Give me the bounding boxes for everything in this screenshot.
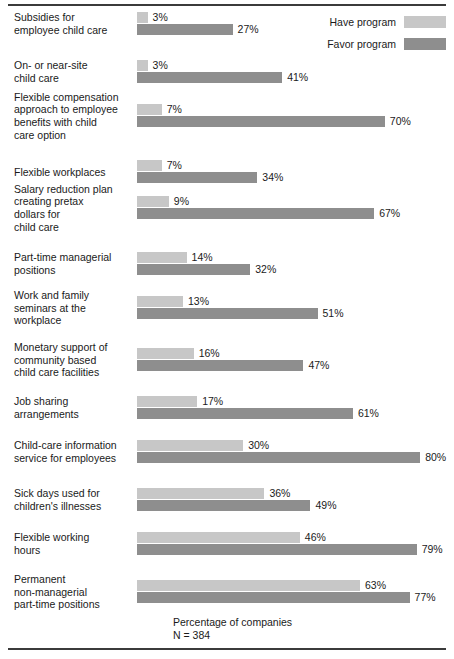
bar-value-label: 70% xyxy=(390,115,411,127)
bar-favor[interactable]: 70% xyxy=(137,116,385,127)
bar-favor[interactable]: 32% xyxy=(137,264,250,275)
bar-group: 63%77% xyxy=(137,580,410,604)
category-label-line: Work and family xyxy=(14,289,132,302)
category-label-line: seminars at the xyxy=(14,302,132,315)
bar-fill xyxy=(137,24,233,35)
bar-favor[interactable]: 27% xyxy=(137,24,233,35)
bar-fill xyxy=(137,172,257,183)
bar-favor[interactable]: 41% xyxy=(137,72,282,83)
bar-value-label: 67% xyxy=(379,207,400,219)
category-label-line: Part-time managerial xyxy=(14,251,132,264)
category-label-line: Flexible workplaces xyxy=(14,166,132,179)
bar-value-label: 27% xyxy=(238,23,259,35)
category-label-line: hours xyxy=(14,544,132,557)
bar-value-label: 49% xyxy=(315,499,336,511)
bar-favor[interactable]: 49% xyxy=(137,500,310,511)
caption-line-2: N = 384 xyxy=(173,629,292,642)
bar-favor[interactable]: 80% xyxy=(137,452,420,463)
bar-group: 17%61% xyxy=(137,396,353,420)
legend-swatch-favor xyxy=(404,38,446,50)
bar-have[interactable]: 3% xyxy=(137,60,282,71)
bar-value-label: 47% xyxy=(308,359,329,371)
category-label: Monetary support ofcommunity basedchild … xyxy=(14,341,132,379)
top-rule xyxy=(8,4,446,6)
bar-fill xyxy=(137,452,420,463)
bar-fill xyxy=(137,348,194,359)
bar-value-label: 3% xyxy=(153,11,168,23)
bar-fill xyxy=(137,500,310,511)
bar-have[interactable]: 36% xyxy=(137,488,310,499)
category-label-line: Flexible compensation xyxy=(14,91,132,104)
bar-value-label: 14% xyxy=(192,251,213,263)
category-label-line: positions xyxy=(14,264,132,277)
bar-value-label: 77% xyxy=(415,591,436,603)
category-label-line: Subsidies for xyxy=(14,11,132,24)
bar-fill xyxy=(137,252,187,263)
chart-caption: Percentage of companies N = 384 xyxy=(173,616,292,641)
chart-row: Child-care informationservice for employ… xyxy=(0,440,454,464)
category-label: Job sharingarrangements xyxy=(14,395,132,420)
bar-have[interactable]: 7% xyxy=(137,104,385,115)
bar-have[interactable]: 63% xyxy=(137,580,410,591)
bar-favor[interactable]: 79% xyxy=(137,544,417,555)
bar-fill xyxy=(137,580,360,591)
bar-fill xyxy=(137,308,318,319)
bar-group: 14%32% xyxy=(137,252,250,276)
bar-value-label: 79% xyxy=(422,543,443,555)
bar-fill xyxy=(137,592,410,603)
chart-row: Work and familyseminars at theworkplace1… xyxy=(0,296,454,320)
bar-favor[interactable]: 77% xyxy=(137,592,410,603)
chart-row: Flexible workplaces7%34% xyxy=(0,160,454,184)
bar-group: 3%27% xyxy=(137,12,233,36)
bar-have[interactable]: 14% xyxy=(137,252,250,263)
bar-fill xyxy=(137,160,162,171)
category-label: On- or near-sitechild care xyxy=(14,59,132,84)
bar-group: 3%41% xyxy=(137,60,282,84)
bar-group: 16%47% xyxy=(137,348,303,372)
bar-value-label: 51% xyxy=(323,307,344,319)
bar-have[interactable]: 30% xyxy=(137,440,420,451)
bar-favor[interactable]: 61% xyxy=(137,408,353,419)
category-label-line: On- or near-site xyxy=(14,59,132,72)
bar-favor[interactable]: 67% xyxy=(137,208,374,219)
category-label-line: Child-care information xyxy=(14,439,132,452)
category-label-line: creating pretax xyxy=(14,195,132,208)
bar-value-label: 41% xyxy=(287,71,308,83)
category-label-line: Sick days used for xyxy=(14,487,132,500)
bar-favor[interactable]: 34% xyxy=(137,172,257,183)
category-label: Subsidies foremployee child care xyxy=(14,11,132,36)
chart-row: Sick days used forchildren's illnesses36… xyxy=(0,488,454,512)
category-label-line: Job sharing xyxy=(14,395,132,408)
bar-group: 13%51% xyxy=(137,296,318,320)
bar-value-label: 63% xyxy=(365,579,386,591)
bar-have[interactable]: 9% xyxy=(137,196,374,207)
bar-have[interactable]: 7% xyxy=(137,160,257,171)
category-label-line: care option xyxy=(14,129,132,142)
chart-row: On- or near-sitechild care3%41% xyxy=(0,60,454,84)
category-label-line: dollars for xyxy=(14,208,132,221)
category-label-line: Monetary support of xyxy=(14,341,132,354)
bar-fill xyxy=(137,12,148,23)
bar-value-label: 3% xyxy=(153,59,168,71)
category-label-line: community based xyxy=(14,354,132,367)
category-label-line: Salary reduction plan xyxy=(14,183,132,196)
bar-have[interactable]: 3% xyxy=(137,12,233,23)
category-label: Salary reduction plancreating pretaxdoll… xyxy=(14,183,132,233)
bar-group: 7%70% xyxy=(137,104,385,128)
bar-fill xyxy=(137,60,148,71)
category-label: Part-time managerialpositions xyxy=(14,251,132,276)
bar-fill xyxy=(137,408,353,419)
bar-fill xyxy=(137,396,197,407)
bar-have[interactable]: 17% xyxy=(137,396,353,407)
bar-favor[interactable]: 51% xyxy=(137,308,318,319)
bar-favor[interactable]: 47% xyxy=(137,360,303,371)
bar-have[interactable]: 16% xyxy=(137,348,303,359)
legend-item-favor[interactable]: Favor program xyxy=(300,36,446,51)
bar-have[interactable]: 46% xyxy=(137,532,417,543)
bar-value-label: 9% xyxy=(174,195,189,207)
bottom-rule xyxy=(8,648,446,650)
bar-value-label: 16% xyxy=(199,347,220,359)
bar-group: 30%80% xyxy=(137,440,420,464)
chart-figure: Have programFavor program Subsidies fore… xyxy=(0,0,454,659)
bar-have[interactable]: 13% xyxy=(137,296,318,307)
